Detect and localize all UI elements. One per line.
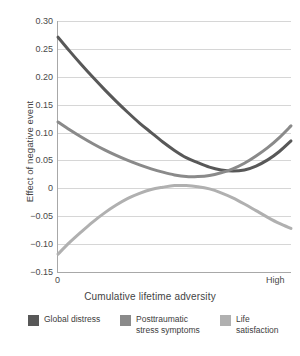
chart-legend: Global distressPosttraumatic stress symp…	[28, 314, 290, 335]
legend-item: Posttraumatic stress symptoms	[120, 314, 220, 335]
y-tick-label: 0.25	[13, 44, 53, 54]
legend-label: Posttraumatic stress symptoms	[136, 314, 200, 335]
y-tick-label: 0.15	[13, 100, 53, 110]
legend-label: Global distress	[44, 314, 100, 325]
legend-label: Life satisfaction	[236, 314, 290, 335]
y-tick-label: 0.30	[13, 16, 53, 26]
x-axis-title: Cumulative lifetime adversity	[0, 291, 300, 302]
y-tick-label: −0.15	[13, 267, 53, 277]
legend-swatch	[120, 315, 131, 326]
x-tick-start: 0	[55, 275, 60, 285]
y-tick-label: 0.20	[13, 72, 53, 82]
series-curves	[58, 21, 291, 272]
legend-item: Global distress	[28, 314, 120, 326]
legend-item: Life satisfaction	[220, 314, 290, 335]
series-line	[58, 37, 291, 171]
y-tick-label: −0.05	[13, 211, 53, 221]
plot-area	[57, 21, 291, 273]
chart-figure: Effect of negative event 0.300.250.200.1…	[0, 0, 300, 356]
legend-swatch	[28, 315, 39, 326]
y-tick-label: 0.10	[13, 128, 53, 138]
y-tick-label: 0.05	[13, 155, 53, 165]
x-tick-end: High	[266, 275, 285, 285]
y-tick-label: −0.10	[13, 239, 53, 249]
legend-swatch	[220, 315, 231, 326]
series-line	[58, 185, 291, 254]
y-tick-label: 0	[13, 183, 53, 193]
